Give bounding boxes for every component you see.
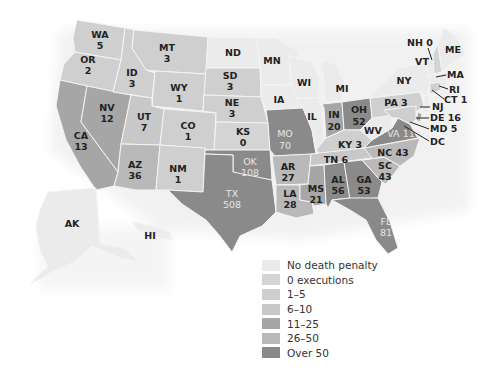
- legend-swatch: [262, 333, 280, 344]
- label-ID: ID: [126, 67, 138, 78]
- legend-item-26-50: 26–50: [262, 331, 378, 346]
- legend-item-no-death-penalty: No death penalty: [262, 258, 378, 273]
- legend-label: Over 50: [287, 347, 329, 359]
- legend-item-over-50: Over 50: [262, 346, 378, 361]
- label-HI: HI: [144, 230, 156, 241]
- label-LA: LA: [283, 188, 297, 199]
- value-KS: 0: [240, 137, 247, 148]
- legend-swatch: [262, 347, 280, 358]
- label-OR: OR: [80, 54, 96, 65]
- value-OK: 108: [241, 167, 259, 178]
- legend-label: 11–25: [287, 318, 319, 330]
- value-MS: 21: [309, 194, 322, 205]
- label-AZ: AZ: [128, 159, 142, 170]
- label-SD: SD: [223, 70, 238, 81]
- label-PA: PA 3: [384, 97, 407, 108]
- value-CA: 13: [74, 141, 87, 152]
- legend-label: 0 executions: [287, 274, 354, 286]
- value-UT: 7: [141, 122, 148, 133]
- label-FL: FL: [381, 216, 392, 227]
- value-AR: 27: [281, 172, 294, 183]
- label-OK: OK: [243, 156, 257, 167]
- legend-item-11-25: 11–25: [262, 316, 378, 331]
- label-MS: MS: [308, 183, 324, 194]
- label-NY: NY: [397, 75, 412, 86]
- label-CT: CT 1: [444, 94, 467, 105]
- label-MO: MO: [277, 128, 293, 139]
- label-ND: ND: [225, 47, 241, 58]
- label-GA: GA: [356, 174, 372, 185]
- value-ID: 3: [129, 78, 136, 89]
- label-IA: IA: [274, 94, 286, 105]
- value-NV: 12: [100, 113, 113, 124]
- value-NE: 3: [229, 108, 236, 119]
- label-AL: AL: [331, 174, 344, 185]
- legend-item-0-executions: 0 executions: [262, 273, 378, 288]
- legend-label: 6–10: [287, 303, 312, 315]
- value-CO: 1: [185, 131, 192, 142]
- legend-label: 26–50: [287, 332, 319, 344]
- legend-item-6-10: 6–10: [262, 302, 378, 317]
- label-CA: CA: [74, 130, 89, 141]
- label-KS: KS: [236, 126, 250, 137]
- legend-swatch: [262, 304, 280, 315]
- label-AR: AR: [281, 161, 296, 172]
- label-SC: SC: [378, 160, 392, 171]
- label-NC: NC 43: [377, 147, 408, 158]
- label-KY: KY 3: [338, 139, 362, 150]
- label-TN: TN 6: [324, 154, 349, 165]
- legend-label: 1–5: [287, 288, 306, 300]
- label-NM: NM: [169, 163, 186, 174]
- label-OH: OH: [351, 104, 367, 115]
- legend-item-1-5: 1–5: [262, 287, 378, 302]
- value-LA: 28: [283, 199, 297, 210]
- label-MN: MN: [263, 55, 280, 66]
- label-WA: WA: [91, 29, 109, 40]
- value-AL: 56: [331, 185, 345, 196]
- value-MT: 3: [164, 53, 171, 64]
- value-IN: 20: [327, 121, 341, 132]
- value-NM: 1: [175, 174, 182, 185]
- label-NV: NV: [99, 102, 115, 113]
- legend-swatch: [262, 289, 280, 300]
- value-SC: 43: [378, 171, 391, 182]
- label-MD: MD 5: [430, 123, 457, 134]
- label-ME: ME: [445, 44, 461, 55]
- value-WY: 1: [176, 93, 183, 104]
- label-MI: MI: [336, 83, 349, 94]
- legend-label: No death penalty: [287, 259, 378, 271]
- value-MO: 70: [279, 140, 291, 151]
- label-DC: DC: [430, 136, 445, 147]
- label-TX: TX: [225, 188, 239, 199]
- legend-swatch: [262, 274, 280, 285]
- label-DE: DE 16: [430, 112, 461, 123]
- label-NE: NE: [225, 97, 239, 108]
- label-MT: MT: [159, 42, 175, 53]
- legend-swatch: [262, 318, 280, 329]
- label-IN: IN: [328, 109, 340, 120]
- value-GA: 53: [357, 185, 370, 196]
- legend-swatch: [262, 260, 280, 271]
- label-VT: VT: [415, 56, 429, 67]
- label-NJ: NJ: [432, 101, 444, 112]
- label-WV: WV: [364, 125, 382, 136]
- label-CO: CO: [180, 120, 195, 131]
- value-WA: 5: [97, 40, 104, 51]
- label-IL: IL: [307, 111, 317, 122]
- us-choropleth-map: WA 5 OR 2 CA 13 NV 12 ID 3 MT 3 WY 1 UT …: [0, 0, 484, 371]
- value-TX: 508: [223, 199, 241, 210]
- label-WY: WY: [170, 82, 187, 93]
- label-NH: NH 0: [407, 37, 433, 48]
- value-OR: 2: [85, 65, 92, 76]
- map-legend: No death penalty 0 executions 1–5 6–10 1…: [262, 258, 378, 360]
- label-UT: UT: [137, 111, 152, 122]
- value-FL: 81: [380, 227, 392, 238]
- value-SD: 3: [227, 81, 234, 92]
- label-AK: AK: [65, 218, 80, 229]
- label-WI: WI: [297, 77, 311, 88]
- value-AZ: 36: [128, 170, 142, 181]
- label-MA: MA: [447, 69, 464, 80]
